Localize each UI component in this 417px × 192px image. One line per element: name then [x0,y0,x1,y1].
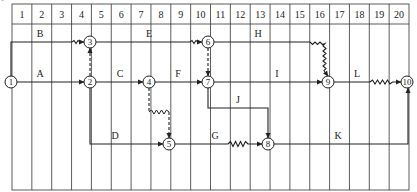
column-header-14: 14 [275,9,285,20]
activity-label-g: G [211,130,218,141]
activity-b-wave [72,41,84,44]
node-6: 6 [202,36,214,48]
column-header-12: 12 [235,9,245,20]
column-header-11: 11 [216,9,226,20]
activity-label-j: J [236,94,240,105]
column-header-13: 13 [255,9,265,20]
column-header-17: 17 [335,9,345,20]
column-header-5: 5 [99,9,104,20]
column-header-1: 1 [19,9,24,20]
node-10: 10 [401,76,413,88]
activity-label-k: K [334,130,342,141]
activity-label-f: F [175,68,181,79]
node-3: 3 [84,36,96,48]
column-header-19: 19 [374,9,384,20]
column-header-7: 7 [139,9,144,20]
activity-d-arrow [90,88,163,144]
column-header-20: 20 [394,9,404,20]
activity-h-wave [310,42,328,76]
column-header-4: 4 [79,9,84,20]
node-label: 1 [9,77,14,87]
dummy-4-5-wave [149,110,169,114]
node-7: 7 [202,76,214,88]
column-header-6: 6 [119,9,124,20]
column-header-2: 2 [39,9,44,20]
activity-l-wave [370,80,401,84]
node-label: 9 [326,77,331,87]
node-label: 2 [88,77,93,87]
column-header-16: 16 [315,9,325,20]
node-4: 4 [143,76,155,88]
column-header-15: 15 [295,9,305,20]
node-1: 1 [5,76,17,88]
column-header-3: 3 [59,9,64,20]
activity-label-d: D [111,130,118,141]
activity-g-wave [228,142,262,147]
activity-label-a: A [36,68,44,79]
activity-label-c: C [117,68,124,79]
activity-label-l: L [354,68,360,79]
node-label: 8 [266,139,271,149]
node-label: 5 [167,139,172,149]
column-headers: 1234567891011121314151617181920 [19,9,404,20]
activity-label-b: B [37,28,44,39]
node-2: 2 [84,76,96,88]
column-header-18: 18 [354,9,364,20]
timeline-grid [12,4,409,190]
node-label: 6 [206,37,211,47]
node-label: 4 [147,77,152,87]
node-label: 10 [403,77,413,87]
node-label: 7 [206,77,211,87]
column-header-9: 9 [178,9,183,20]
activity-label-i: I [275,68,278,79]
activity-e-wave [190,41,202,44]
time-scaled-network-diagram: 1234567891011121314151617181920 [0,0,417,192]
activity-label-h: H [254,28,261,39]
activity-label-e: E [146,28,152,39]
node-5: 5 [163,138,175,150]
node-9: 9 [322,76,334,88]
column-header-10: 10 [196,9,206,20]
node-label: 3 [88,37,93,47]
node-8: 8 [262,138,274,150]
column-header-8: 8 [158,9,163,20]
